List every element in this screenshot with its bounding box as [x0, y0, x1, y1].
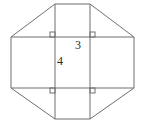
- geometry-figure: 3 4: [0, 0, 142, 129]
- figure-canvas: [0, 0, 142, 129]
- octagon-outline: [11, 4, 134, 119]
- side-length-label-4: 4: [57, 55, 63, 67]
- right-angle-mark-0: [50, 32, 55, 37]
- right-angle-mark-1: [90, 32, 95, 37]
- right-angle-mark-2: [50, 88, 55, 93]
- side-length-label-3: 3: [75, 39, 81, 51]
- right-angle-mark-3: [90, 88, 95, 93]
